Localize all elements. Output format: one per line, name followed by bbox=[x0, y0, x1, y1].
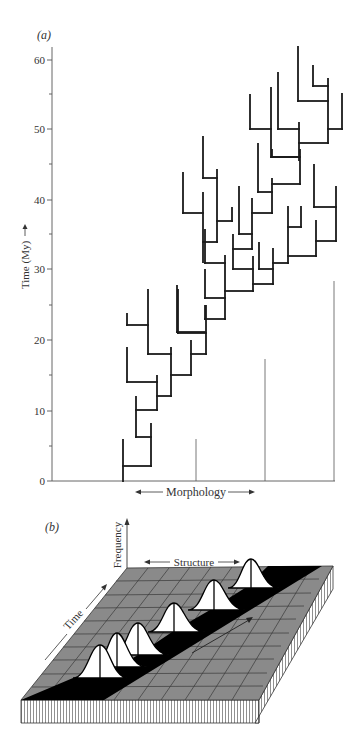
frequency-arrow-icon bbox=[125, 518, 130, 525]
y-axis-arrow-icon bbox=[23, 224, 28, 236]
time-arrow-icon bbox=[101, 584, 107, 591]
frequency-label: Frequency bbox=[111, 521, 123, 568]
structure-right-arrow-icon bbox=[234, 560, 240, 565]
left-arrow-icon bbox=[135, 490, 141, 495]
structure-label: Structure bbox=[174, 556, 214, 568]
y-tick-60: 60 bbox=[34, 54, 46, 66]
y-tick-40: 40 bbox=[34, 194, 46, 206]
frequency-title: Frequency bbox=[111, 521, 123, 568]
panel-a: (a) 0 10 20 30 40 50 60 bbox=[19, 28, 342, 499]
phylogenetic-tree bbox=[123, 47, 342, 481]
panel-b-label: (b) bbox=[45, 520, 59, 534]
y-tick-10: 10 bbox=[34, 405, 46, 417]
right-arrow-icon bbox=[249, 490, 255, 495]
x-axis-title: Morphology bbox=[135, 485, 255, 499]
y-axis-title: Time (My) bbox=[19, 241, 32, 290]
y-tick-20: 20 bbox=[34, 334, 46, 346]
y-axis-label: Time (My) bbox=[19, 241, 32, 290]
panel-a-label: (a) bbox=[37, 28, 51, 42]
figure: (a) 0 10 20 30 40 50 60 bbox=[0, 0, 353, 738]
y-tick-50: 50 bbox=[34, 123, 46, 135]
y-tick-0: 0 bbox=[40, 475, 46, 487]
slab-front-face bbox=[21, 700, 259, 723]
x-axis-label: Morphology bbox=[166, 485, 226, 499]
reference-lines bbox=[196, 281, 334, 481]
y-tick-labels: 0 10 20 30 40 50 60 bbox=[34, 54, 46, 487]
panel-b: (b) Frequency Structure bbox=[21, 518, 333, 723]
structure-title: Structure bbox=[144, 556, 240, 568]
y-tick-30: 30 bbox=[34, 263, 46, 275]
y-ticks bbox=[47, 60, 52, 481]
